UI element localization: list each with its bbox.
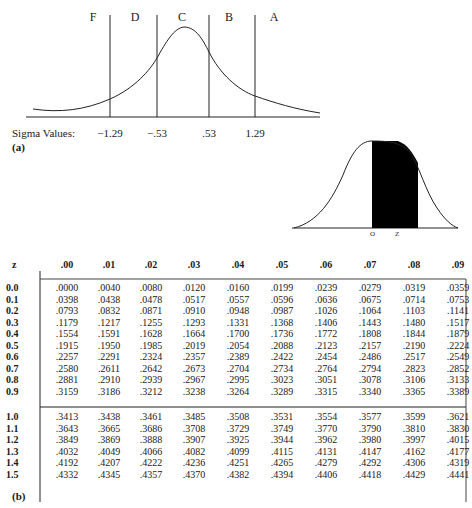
table-cell: .4418 [348, 469, 392, 480]
row-z-label: 0.2 [6, 305, 19, 316]
row-z-label: 1.0 [6, 411, 19, 422]
table-cell: .3790 [348, 423, 392, 434]
table-cell: .4015 [436, 434, 472, 445]
table-cell: .4207 [87, 457, 131, 468]
row-z-label: 0.8 [6, 374, 19, 385]
table-cell: .1950 [87, 340, 131, 351]
row-z-label: 1.4 [6, 457, 19, 468]
row-z-label: 0.1 [6, 294, 19, 305]
table-cell: .3315 [304, 386, 348, 397]
table-cell: .4066 [129, 446, 173, 457]
panel-label-b: (b) [12, 490, 25, 502]
row-z-label: 0.4 [6, 328, 19, 339]
table-cell: .2881 [45, 374, 89, 385]
sigma-value: 1.29 [235, 127, 275, 139]
table-cell: .0438 [87, 294, 131, 305]
table-cell: .2704 [216, 363, 260, 374]
table-cell: .3907 [172, 434, 216, 445]
table-cell: .3289 [260, 386, 304, 397]
table-cell: .4406 [304, 469, 348, 480]
table-cell: .0239 [304, 282, 348, 293]
table-cell: .3264 [216, 386, 260, 397]
table-cell: .3461 [129, 411, 173, 422]
column-header: .09 [436, 259, 472, 270]
z-column-header: z [12, 259, 16, 270]
table-cell: .1179 [45, 317, 89, 328]
table-cell: .4370 [172, 469, 216, 480]
table-cell: .3888 [129, 434, 173, 445]
table-cell: .0793 [45, 305, 89, 316]
table-cell: .4332 [45, 469, 89, 480]
table-cell: .0279 [348, 282, 392, 293]
table-cell: .2291 [87, 351, 131, 362]
table-cell: .3186 [87, 386, 131, 397]
table-cell: .3413 [45, 411, 89, 422]
column-header: .00 [45, 259, 89, 270]
table-cell: .1844 [392, 328, 436, 339]
table-cell: .0080 [129, 282, 173, 293]
table-cell: .1985 [129, 340, 173, 351]
table-cell: .0120 [172, 282, 216, 293]
table-cell: .4049 [87, 446, 131, 457]
table-cell: .1736 [260, 328, 304, 339]
table-cell: .2939 [129, 374, 173, 385]
table-cell: .1368 [260, 317, 304, 328]
table-cell: .4382 [216, 469, 260, 480]
table-cell: .3554 [304, 411, 348, 422]
table-cell: .1591 [87, 328, 131, 339]
grade-label-c: C [172, 10, 192, 25]
table-cell: .3577 [348, 411, 392, 422]
table-cell: .3389 [436, 386, 472, 397]
table-cell: .3749 [260, 423, 304, 434]
table-cell: .2611 [87, 363, 131, 374]
row-z-label: 0.9 [6, 386, 19, 397]
table-cell: .3810 [392, 423, 436, 434]
row-z-label: 0.6 [6, 351, 19, 362]
table-cell: .4306 [392, 457, 436, 468]
table-cell: .1293 [172, 317, 216, 328]
grade-label-b: B [219, 10, 239, 25]
table-cell: .3830 [436, 423, 472, 434]
column-header: .03 [172, 259, 216, 270]
table-cell: .3997 [392, 434, 436, 445]
grade-label-d: D [125, 10, 145, 25]
sigma-value: −.53 [137, 127, 177, 139]
table-cell: .0871 [129, 305, 173, 316]
table-cell: .4131 [304, 446, 348, 457]
table-cell: .0478 [129, 294, 173, 305]
table-cell: .2324 [129, 351, 173, 362]
sigma-value: −1.29 [90, 127, 130, 139]
table-cell: .4394 [260, 469, 304, 480]
table-cell: .2642 [129, 363, 173, 374]
table-cell: .3238 [172, 386, 216, 397]
table-cell: .4441 [436, 469, 472, 480]
table-cell: .2257 [45, 351, 89, 362]
table-cell: .3106 [392, 374, 436, 385]
table-cell: .2224 [436, 340, 472, 351]
table-cell: .3849 [45, 434, 89, 445]
column-header: .05 [260, 259, 304, 270]
table-cell: .2673 [172, 363, 216, 374]
table-cell: .4032 [45, 446, 89, 457]
table-cell: .3531 [260, 411, 304, 422]
table-cell: .3980 [348, 434, 392, 445]
table-cell: .2794 [348, 363, 392, 374]
table-cell: .4192 [45, 457, 89, 468]
table-cell: .1554 [45, 328, 89, 339]
row-z-label: 1.1 [6, 423, 19, 434]
row-z-label: 1.5 [6, 469, 19, 480]
table-cell: .0199 [260, 282, 304, 293]
table-cell: .1915 [45, 340, 89, 351]
table-cell: .4292 [348, 457, 392, 468]
table-cell: .4429 [392, 469, 436, 480]
table-cell: .2823 [392, 363, 436, 374]
column-header: .07 [348, 259, 392, 270]
table-cell: .3023 [260, 374, 304, 385]
table-cell: .2422 [260, 351, 304, 362]
row-z-label: 1.2 [6, 434, 19, 445]
table-cell: .2190 [392, 340, 436, 351]
table-cell: .4115 [260, 446, 304, 457]
table-cell: .1103 [392, 305, 436, 316]
table-cell: .2517 [392, 351, 436, 362]
table-cell: .2088 [260, 340, 304, 351]
